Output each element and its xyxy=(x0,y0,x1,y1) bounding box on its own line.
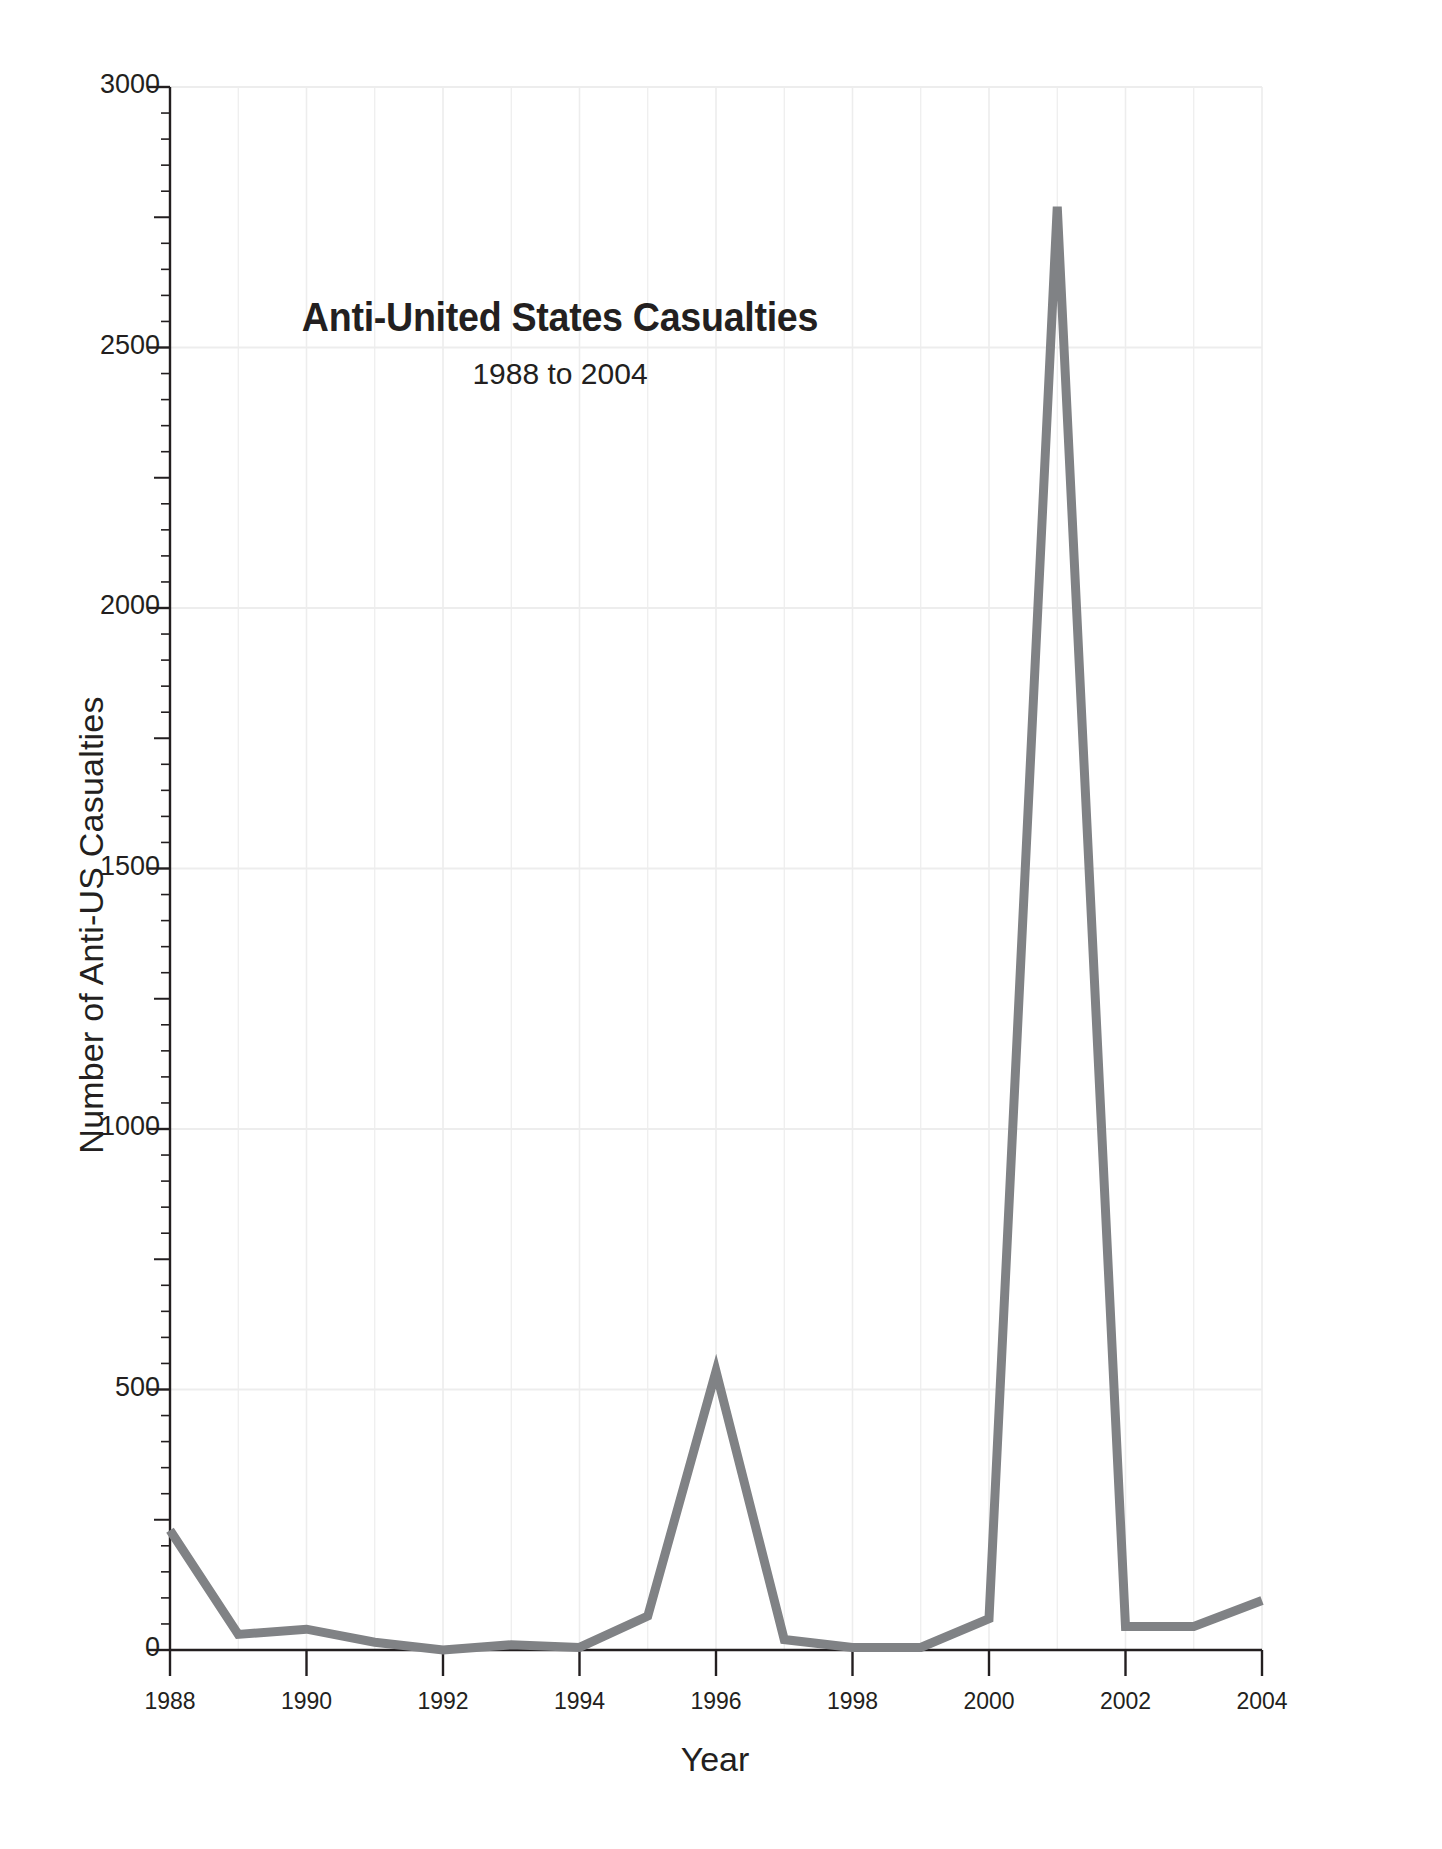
chart-title: Anti-United States Casualties xyxy=(222,295,899,340)
chart-subtitle: 1988 to 2004 xyxy=(200,357,920,391)
x-tick-label: 2002 xyxy=(1066,1688,1186,1715)
x-axis-title: Year xyxy=(170,1740,1260,1779)
y-tick-label: 2500 xyxy=(40,332,160,359)
x-tick-label: 1992 xyxy=(383,1688,503,1715)
y-tick-label: 1500 xyxy=(40,853,160,880)
y-tick-label: 2000 xyxy=(40,592,160,619)
x-tick-label: 1998 xyxy=(793,1688,913,1715)
x-tick-label: 2004 xyxy=(1202,1688,1322,1715)
x-axis-ticks xyxy=(170,1650,1262,1676)
y-tick-label: 3000 xyxy=(40,71,160,98)
chart-figure: Number of Anti-US Casualties Year Anti-U… xyxy=(0,0,1442,1849)
x-tick-label: 1990 xyxy=(247,1688,367,1715)
y-tick-label: 500 xyxy=(40,1374,160,1401)
line-chart-plot xyxy=(0,0,1442,1849)
x-tick-label: 1996 xyxy=(656,1688,776,1715)
y-tick-label: 0 xyxy=(40,1634,160,1661)
x-tick-label: 1994 xyxy=(520,1688,640,1715)
x-tick-label: 2000 xyxy=(929,1688,1049,1715)
y-tick-label: 1000 xyxy=(40,1113,160,1140)
x-tick-label: 1988 xyxy=(110,1688,230,1715)
